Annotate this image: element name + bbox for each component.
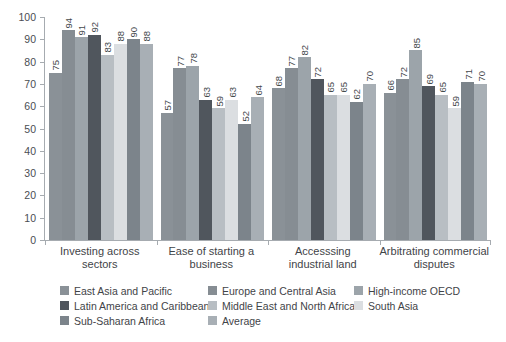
- bar-value-label: 70: [475, 71, 486, 82]
- y-axis-tick: [40, 17, 44, 18]
- bar-value-label: 77: [286, 56, 297, 67]
- y-axis-tick: [40, 218, 44, 219]
- y-axis-tick: [40, 84, 44, 85]
- y-axis-tick: [40, 240, 44, 241]
- bar: 90: [127, 39, 140, 240]
- y-axis-tick: [40, 62, 44, 63]
- bar-value-label: 77: [174, 56, 185, 67]
- bar: 66: [384, 93, 397, 240]
- bar-chart-figure: 0102030405060708090100 75949192838890885…: [0, 0, 506, 342]
- bar-value-label: 91: [76, 25, 87, 36]
- bar: 77: [285, 68, 298, 240]
- legend-item: Europe and Central Asia: [208, 285, 354, 297]
- x-axis-category-labels: Investing across sectorsEase of starting…: [44, 245, 490, 271]
- x-axis-tick: [490, 241, 491, 245]
- legend-item: South Asia: [354, 300, 460, 312]
- bar: 88: [140, 44, 153, 240]
- bar: 77: [173, 68, 186, 240]
- bar: 85: [409, 50, 422, 240]
- y-tick-label: 50: [0, 124, 36, 134]
- legend-swatch-icon: [208, 316, 217, 325]
- bar: 69: [422, 86, 435, 240]
- legend-item: Average: [208, 315, 354, 327]
- bar: 52: [238, 124, 251, 240]
- bar-value-label: 64: [252, 85, 263, 96]
- bar: 92: [88, 35, 101, 240]
- y-tick-label: 20: [0, 190, 36, 200]
- bar: 82: [298, 57, 311, 240]
- bar-value-label: 88: [115, 31, 126, 42]
- bar-value-label: 66: [384, 80, 395, 91]
- y-tick-label: 70: [0, 79, 36, 89]
- legend-label: High-income OECD: [368, 285, 460, 297]
- y-axis-tick: [40, 129, 44, 130]
- bar: 72: [396, 79, 409, 240]
- y-axis-tick: [40, 39, 44, 40]
- bar-value-label: 65: [338, 82, 349, 93]
- y-tick-label: 10: [0, 213, 36, 223]
- bar-value-label: 69: [423, 74, 434, 85]
- bar: 83: [101, 55, 114, 240]
- bar-value-label: 68: [273, 76, 284, 87]
- legend-item: Sub-Saharan Africa: [60, 315, 208, 327]
- legend-item: Latin America and Caribbean: [60, 300, 208, 312]
- bar-value-label: 85: [410, 38, 421, 49]
- legend-swatch-icon: [60, 286, 69, 295]
- legend-swatch-icon: [354, 286, 363, 295]
- y-tick-label: 0: [0, 235, 36, 245]
- bar-value-label: 94: [63, 18, 74, 29]
- bar: 70: [474, 84, 487, 240]
- bar-value-label: 70: [364, 71, 375, 82]
- y-axis-tick: [40, 173, 44, 174]
- legend-item: East Asia and Pacific: [60, 285, 208, 297]
- bar-value-label: 63: [200, 87, 211, 98]
- legend-swatch-icon: [354, 301, 363, 310]
- y-tick-label: 30: [0, 168, 36, 178]
- bar-value-label: 75: [50, 60, 61, 71]
- bar: 68: [272, 88, 285, 240]
- legend-swatch-icon: [208, 286, 217, 295]
- bar: 57: [161, 113, 174, 240]
- legend-item: Middle East and North Africa: [208, 300, 354, 312]
- legend-item: High-income OECD: [354, 285, 460, 297]
- bar-group: 7594919283889088: [45, 17, 157, 240]
- bar-value-label: 59: [213, 96, 224, 107]
- legend-swatch-icon: [60, 301, 69, 310]
- bar: 65: [435, 95, 448, 240]
- bar-group: 6877827265656270: [268, 17, 380, 240]
- bar-value-label: 72: [397, 67, 408, 78]
- category-label: Arbitrating commercial disputes: [379, 245, 491, 271]
- bar-value-label: 52: [239, 111, 250, 122]
- bar-value-label: 59: [449, 96, 460, 107]
- bar: 72: [311, 79, 324, 240]
- y-tick-label: 60: [0, 101, 36, 111]
- y-tick-label: 40: [0, 146, 36, 156]
- category-label: Accesssing industrial land: [267, 245, 379, 271]
- bar-value-label: 83: [102, 42, 113, 53]
- bar-group: 5777786359635264: [157, 17, 269, 240]
- bar-value-label: 78: [187, 53, 198, 64]
- legend-label: East Asia and Pacific: [74, 285, 172, 297]
- bar: 91: [75, 37, 88, 240]
- bar: 63: [225, 100, 238, 240]
- y-axis-tick: [40, 151, 44, 152]
- bar: 70: [363, 84, 376, 240]
- category-label: Ease of starting a business: [156, 245, 268, 271]
- legend-label: Latin America and Caribbean: [74, 300, 209, 312]
- bar: 65: [324, 95, 337, 240]
- legend-swatch-icon: [60, 316, 69, 325]
- y-tick-label: 90: [0, 34, 36, 44]
- legend-label: South Asia: [368, 300, 418, 312]
- bar: 75: [49, 73, 62, 240]
- legend-swatch-icon: [208, 301, 217, 310]
- bar-value-label: 90: [128, 27, 139, 38]
- bar: 63: [199, 100, 212, 240]
- legend: East Asia and PacificEurope and Central …: [60, 283, 460, 328]
- bar-value-label: 65: [436, 82, 447, 93]
- category-label: Investing across sectors: [44, 245, 156, 271]
- bar: 94: [62, 30, 75, 240]
- y-axis-tick: [40, 106, 44, 107]
- legend-label: Sub-Saharan Africa: [74, 315, 165, 327]
- bar: 78: [186, 66, 199, 240]
- bar-value-label: 92: [89, 22, 100, 33]
